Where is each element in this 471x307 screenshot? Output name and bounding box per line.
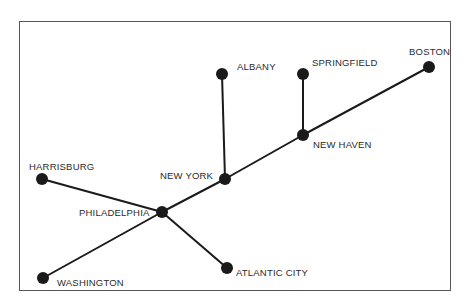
label-albany: ALBANY	[237, 61, 276, 72]
network-graph	[0, 0, 471, 307]
node-boston	[423, 61, 435, 73]
label-philadelphia: PHILADELPHIA	[79, 207, 150, 218]
node-albany	[216, 68, 228, 80]
edge-philadelphia-atlantic-city	[162, 212, 227, 268]
edge-albany-new-york	[222, 74, 225, 179]
edges	[42, 67, 429, 278]
label-boston: BOSTON	[409, 46, 450, 57]
edge-philadelphia-washington	[43, 212, 162, 278]
label-atlantic-city: ATLANTIC CITY	[236, 267, 308, 278]
label-new-york: NEW YORK	[160, 170, 213, 181]
node-springfield	[297, 68, 309, 80]
edge-boston-new-haven	[303, 67, 429, 135]
node-new-haven	[297, 129, 309, 141]
node-new-york	[219, 173, 231, 185]
label-washington: WASHINGTON	[57, 277, 124, 288]
edge-new-haven-new-york	[225, 135, 303, 179]
node-harrisburg	[36, 173, 48, 185]
label-harrisburg: HARRISBURG	[29, 161, 94, 172]
node-washington	[37, 272, 49, 284]
node-philadelphia	[156, 206, 168, 218]
label-new-haven: NEW HAVEN	[313, 139, 372, 150]
edge-new-york-philadelphia	[162, 179, 225, 212]
label-springfield: SPRINGFIELD	[312, 57, 378, 68]
node-atlantic-city	[221, 262, 233, 274]
